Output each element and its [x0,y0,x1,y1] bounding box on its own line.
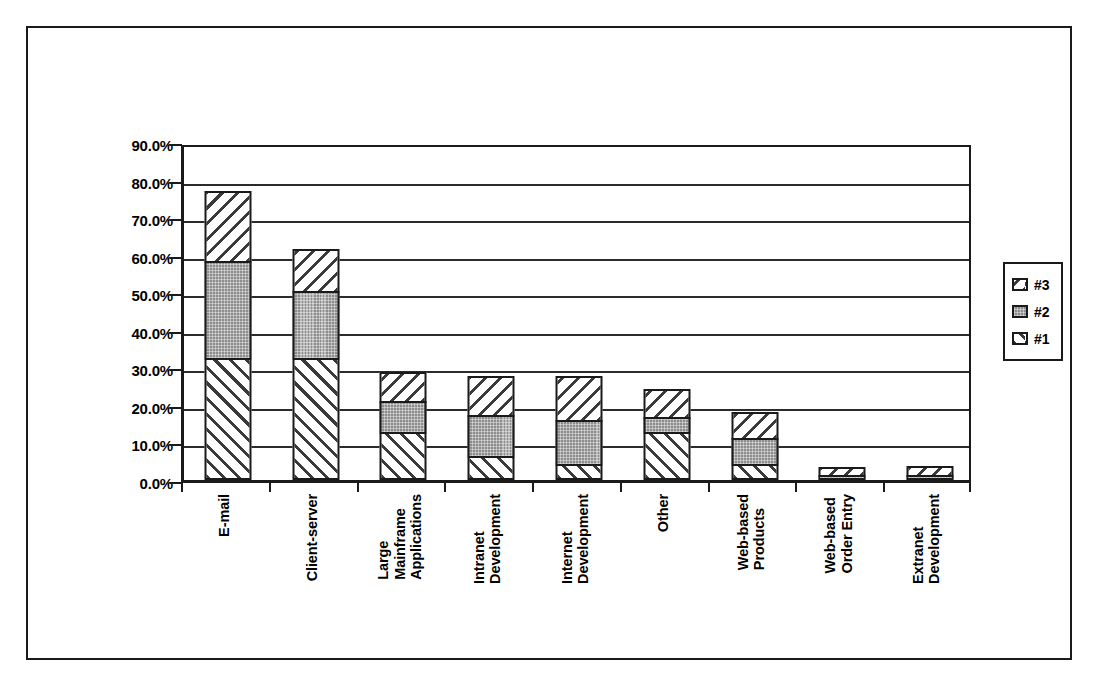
y-axis-tick-label: 10.0% [83,438,173,453]
stacked-bar[interactable] [468,376,515,480]
bar-slot [886,147,974,480]
x-axis-tick-mark [883,483,885,492]
bar-segment-series2[interactable] [819,475,866,480]
bar-segment-series1[interactable] [555,464,602,480]
x-axis-tick-mark [969,483,971,492]
y-axis-tick-label: 40.0% [83,325,173,340]
x-axis-label-line: Client-server [305,494,320,581]
x-axis-label-line: Mainframe [393,494,408,580]
x-axis-tick-mark [532,483,534,492]
x-axis-category-label: ExtranetDevelopment [883,494,971,644]
bar-slot [360,147,448,480]
stacked-bar[interactable] [292,249,339,480]
legend-item[interactable]: #2 [1012,298,1055,325]
x-axis-category-label: LargeMainframeApplications [357,494,445,644]
x-axis-label-line: Products [752,494,767,570]
legend-swatch-icon [1012,278,1028,291]
x-axis-label-line: Internet [560,494,575,584]
x-axis-label-line: E-mail [217,494,232,537]
bar-segment-series3[interactable] [468,376,515,417]
x-axis-label-line: Intranet [472,494,487,584]
y-axis-tick-label: 80.0% [83,175,173,190]
y-axis-labels: 90.0%80.0%70.0%60.0%50.0%40.0%30.0%20.0%… [68,145,173,483]
y-axis-tick-label: 60.0% [83,250,173,265]
x-axis-tick-mark [620,483,622,492]
x-axis-category-label: Other [620,494,708,644]
x-axis-label-line: Web-based [736,494,751,570]
chart-frame: 90.0%80.0%70.0%60.0%50.0%40.0%30.0%20.0%… [26,26,1072,660]
bar-segment-series3[interactable] [731,412,778,440]
x-axis-tick-mark [444,483,446,492]
bar-segment-series2[interactable] [380,401,427,433]
bar-segment-series2[interactable] [555,420,602,466]
stacked-bar[interactable] [555,376,602,480]
bar-segment-series2[interactable] [204,261,251,361]
x-axis-category-label: Web-basedProducts [708,494,796,644]
bar-segment-series2[interactable] [292,291,339,360]
stacked-bar[interactable] [819,467,866,481]
x-axis-tick-mark [269,483,271,492]
bar-segment-series1[interactable] [643,432,690,480]
legend-item[interactable]: #3 [1012,271,1055,298]
bar-segment-series1[interactable] [468,456,515,480]
plot-area [181,145,971,483]
bar-segment-series1[interactable] [731,464,778,480]
stacked-bar[interactable] [731,412,778,480]
x-axis-label-line: Large [377,494,392,580]
bar-segment-series2[interactable] [731,438,778,466]
bar-slot [711,147,799,480]
x-axis-label-line: Extranet [911,494,926,584]
bar-segment-series3[interactable] [204,191,251,262]
x-axis-category-label: Web-basedOrder Entry [795,494,883,644]
x-axis-ticks [181,483,971,493]
x-axis-label-line: Development [928,494,943,584]
bar-segment-series2[interactable] [907,475,954,480]
x-axis-label-line: Other [656,494,671,532]
y-axis-tick-label: 90.0% [83,138,173,153]
legend-item-label: #3 [1034,278,1050,292]
bar-segment-series1[interactable] [204,358,251,480]
bar-slot [272,147,360,480]
x-axis-labels: E-mailClient-serverLargeMainframeApplica… [181,494,971,644]
y-axis-tick-label: 0.0% [83,476,173,491]
legend-item-label: #1 [1034,332,1050,346]
x-axis-category-label: Client-server [269,494,357,644]
y-axis-tick-label: 30.0% [83,363,173,378]
bar-segment-series3[interactable] [292,249,339,293]
x-axis-tick-mark [357,483,359,492]
legend-swatch-icon [1012,305,1028,318]
x-axis-tick-mark [795,483,797,492]
x-axis-category-label: InternetDevelopment [532,494,620,644]
y-axis-tick-label: 70.0% [83,213,173,228]
legend-swatch-icon [1012,332,1028,345]
bar-slot [535,147,623,480]
x-axis-category-label: E-mail [181,494,269,644]
bar-slot [184,147,272,480]
bar-segment-series3[interactable] [555,376,602,422]
x-axis-label-line: Development [489,494,504,584]
legend-item[interactable]: #1 [1012,325,1055,352]
legend-item-label: #2 [1034,305,1050,319]
x-axis-label-line: Applications [409,494,424,580]
stacked-bar[interactable] [204,191,251,480]
bar-slot [447,147,535,480]
stacked-bar[interactable] [380,372,427,480]
y-axis-tick-label: 50.0% [83,288,173,303]
x-axis-tick-mark [181,483,183,492]
bar-segment-series2[interactable] [468,415,515,458]
x-axis-category-label: IntranetDevelopment [444,494,532,644]
bar-segment-series1[interactable] [292,358,339,480]
stacked-bar[interactable] [907,466,954,480]
stacked-bar[interactable] [643,389,690,480]
bar-segment-series1[interactable] [380,432,427,480]
bar-segment-series3[interactable] [643,389,690,419]
x-axis-label-line: Web-based [824,494,839,573]
chart-legend: #3#2#1 [1003,262,1063,361]
bar-slot [623,147,711,480]
x-axis-tick-mark [708,483,710,492]
bar-slot [798,147,886,480]
x-axis-label-line: Order Entry [840,494,855,573]
bar-segment-series3[interactable] [380,372,427,403]
y-axis-tick-label: 20.0% [83,400,173,415]
x-axis-label-line: Development [576,494,591,584]
